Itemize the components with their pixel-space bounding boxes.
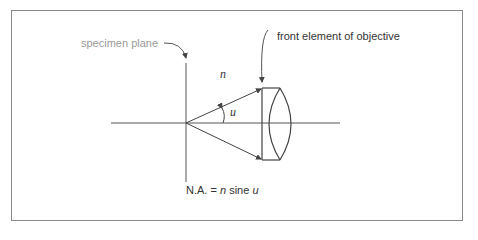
refractive-index-label: n <box>220 67 226 82</box>
half-angle-label: u <box>230 105 236 120</box>
upper-ray <box>186 89 261 123</box>
lower-ray <box>186 123 261 159</box>
specimen-leader-arrow-icon <box>164 43 186 58</box>
specimen-plane-label: specimen plane <box>81 37 158 49</box>
front-element-leader-arrow-icon <box>262 30 268 82</box>
numerical-aperture-formula: N.A. = n sine u <box>186 184 259 196</box>
angle-arc-icon <box>222 108 224 123</box>
formula-n: n <box>220 184 226 196</box>
formula-sine: sine <box>229 184 249 196</box>
formula-lhs: N.A. = <box>186 184 217 196</box>
front-element-label: front element of objective <box>277 30 400 42</box>
formula-u: u <box>252 184 258 196</box>
front-element-icon <box>262 88 291 160</box>
